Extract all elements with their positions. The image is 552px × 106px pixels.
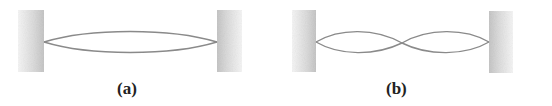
figure-label-b: (b)	[386, 80, 407, 97]
right-wall-b	[489, 11, 513, 73]
string-upper-a	[44, 32, 217, 43]
left-wall-a	[18, 10, 44, 72]
figure-b	[292, 10, 513, 73]
string-upper-b	[316, 32, 489, 43]
string-lower-a	[44, 42, 217, 53]
right-wall-a	[217, 10, 242, 72]
string-lower-b	[316, 42, 489, 53]
standing-wave-diagram	[0, 0, 552, 106]
figure-a	[18, 10, 242, 72]
left-wall-b	[292, 10, 316, 72]
figure-label-a: (a)	[117, 80, 137, 97]
